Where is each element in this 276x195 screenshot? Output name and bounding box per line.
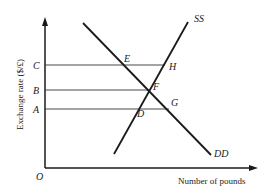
supply-curve-label: SS — [194, 13, 204, 24]
y-axis-arrow-icon — [42, 17, 48, 26]
x-axis-arrow-icon — [249, 165, 258, 171]
x-axis-title: Number of pounds — [178, 176, 246, 186]
level-label-a: A — [32, 104, 40, 115]
point-label-e: E — [123, 53, 130, 64]
y-axis-title: Exchange rate ($/£) — [15, 59, 25, 130]
demand-curve-label: DD — [213, 148, 229, 159]
point-label-d: D — [136, 108, 145, 119]
point-label-h: H — [168, 61, 177, 72]
exchange-rate-diagram: C B A O E H F G D SS DD Exchange rate ($… — [0, 0, 276, 195]
level-label-c: C — [33, 60, 40, 71]
point-label-g: G — [171, 97, 178, 108]
level-label-b: B — [33, 85, 39, 96]
demand-curve — [83, 23, 211, 155]
point-label-f: F — [152, 81, 160, 92]
supply-curve — [114, 22, 188, 154]
origin-label: O — [36, 171, 43, 182]
